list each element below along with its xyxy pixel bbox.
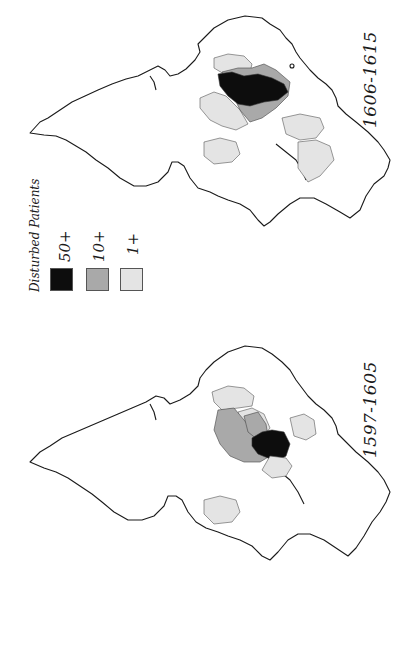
region-light [298, 140, 334, 182]
region-light [204, 496, 240, 524]
legend-swatch-1-plus [120, 268, 143, 291]
legend-title: Disturbed Patients [28, 179, 42, 292]
coastline-top [30, 16, 390, 226]
legend-label-1-plus: 1+ [124, 233, 142, 255]
period-label-bottom: 1597-1605 [360, 361, 380, 458]
island [290, 64, 294, 68]
legend-label-50-plus: 50+ [56, 230, 74, 262]
map-1606-1615 [30, 16, 390, 226]
coastline-bottom [30, 346, 390, 560]
legend-label-10-plus: 10+ [90, 230, 108, 262]
map-figure [0, 0, 405, 661]
period-label-top: 1606-1615 [360, 31, 380, 128]
region-light [212, 386, 254, 410]
map-1597-1605 [30, 346, 390, 560]
region-light [282, 114, 324, 140]
region-light [262, 456, 292, 478]
region-light [204, 138, 240, 164]
region-light [290, 414, 316, 440]
legend-swatch-50-plus [50, 268, 73, 291]
legend-swatch-10-plus [86, 268, 109, 291]
